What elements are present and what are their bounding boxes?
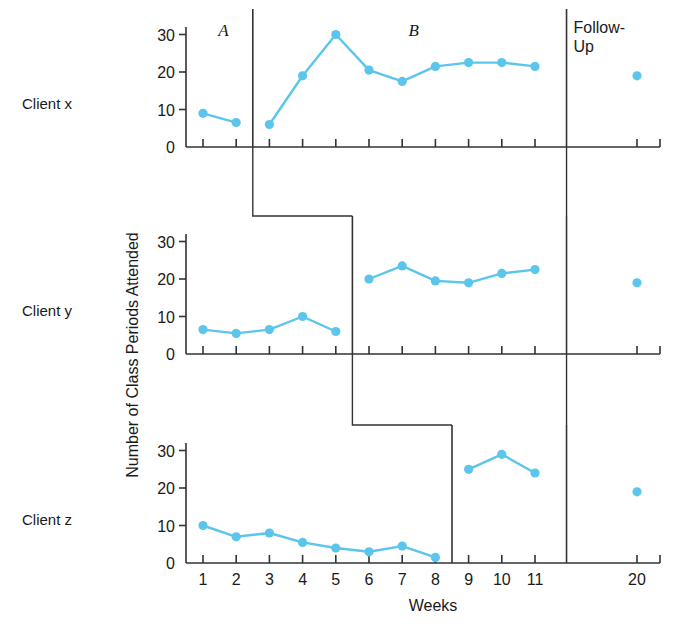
y-tick-label-panel-1-1: 10 <box>157 309 175 326</box>
phase-label-followup-line1: Follow- <box>574 19 626 36</box>
data-point-panel-1-1-0[interactable] <box>364 274 373 283</box>
y-tick-label-panel-1-2: 20 <box>157 271 175 288</box>
y-tick-label-panel-0-0: 0 <box>166 139 175 156</box>
data-point-panel-1-1-4[interactable] <box>497 269 506 278</box>
x-tick-label-3: 4 <box>298 571 307 588</box>
panel-label-1: Client y <box>22 302 73 319</box>
data-point-panel-1-1-3[interactable] <box>464 278 473 287</box>
figure-canvas: 010203001020300102030123456789101120Week… <box>0 0 679 633</box>
data-point-panel-2-0-6[interactable] <box>398 542 407 551</box>
x-tick-label-1: 2 <box>232 571 241 588</box>
data-point-panel-1-1-1[interactable] <box>398 261 407 270</box>
series-line-panel-0-0 <box>203 113 236 122</box>
data-point-panel-2-0-0[interactable] <box>198 521 207 530</box>
y-tick-label-panel-0-1: 10 <box>157 102 175 119</box>
panel-label-0: Client x <box>22 95 73 112</box>
data-point-panel-1-2-0[interactable] <box>632 278 641 287</box>
x-tick-label-2: 3 <box>265 571 274 588</box>
data-point-panel-1-0-0[interactable] <box>198 325 207 334</box>
series-line-panel-2-0 <box>203 526 435 558</box>
y-tick-label-panel-2-1: 10 <box>157 518 175 535</box>
data-point-panel-2-0-2[interactable] <box>265 528 274 537</box>
x-axis-title: Weeks <box>409 597 458 614</box>
y-tick-label-panel-0-3: 30 <box>157 27 175 44</box>
y-tick-label-panel-1-0: 0 <box>166 346 175 363</box>
baseline-step-connector-0 <box>253 147 353 216</box>
x-tick-label-7: 8 <box>431 571 440 588</box>
x-tick-label-9: 10 <box>493 571 511 588</box>
phase-label-b: B <box>408 21 419 40</box>
x-tick-label-6: 7 <box>398 571 407 588</box>
y-tick-label-panel-2-0: 0 <box>166 555 175 572</box>
data-point-panel-1-0-4[interactable] <box>331 327 340 336</box>
x-tick-label-8: 9 <box>464 571 473 588</box>
data-point-panel-0-1-6[interactable] <box>464 58 473 67</box>
data-point-panel-2-1-0[interactable] <box>464 465 473 474</box>
data-point-panel-2-0-7[interactable] <box>431 553 440 562</box>
data-point-panel-2-2-0[interactable] <box>632 487 641 496</box>
y-axis-title: Number of Class Periods Attended <box>124 232 141 477</box>
data-point-panel-0-1-4[interactable] <box>398 77 407 86</box>
y-tick-label-panel-2-3: 30 <box>157 443 175 460</box>
data-point-panel-0-1-7[interactable] <box>497 58 506 67</box>
data-point-panel-0-0-0[interactable] <box>198 109 207 118</box>
y-tick-label-panel-1-3: 30 <box>157 234 175 251</box>
data-point-panel-0-1-2[interactable] <box>331 30 340 39</box>
phase-label-a: A <box>217 21 229 40</box>
data-point-panel-2-0-1[interactable] <box>232 532 241 541</box>
y-tick-label-panel-0-2: 20 <box>157 64 175 81</box>
x-tick-label-11: 20 <box>628 571 646 588</box>
x-tick-label-5: 6 <box>365 571 374 588</box>
data-point-panel-0-1-3[interactable] <box>364 66 373 75</box>
multiple-baseline-chart: 010203001020300102030123456789101120Week… <box>0 0 679 633</box>
data-point-panel-2-1-1[interactable] <box>497 450 506 459</box>
series-line-panel-1-1 <box>369 266 535 283</box>
data-point-panel-2-0-5[interactable] <box>364 547 373 556</box>
data-point-panel-2-0-3[interactable] <box>298 538 307 547</box>
data-point-panel-0-1-1[interactable] <box>298 71 307 80</box>
x-tick-label-10: 11 <box>527 571 544 588</box>
panel-label-2: Client z <box>22 511 72 528</box>
data-point-panel-1-1-5[interactable] <box>530 265 539 274</box>
data-point-panel-1-0-3[interactable] <box>298 312 307 321</box>
x-tick-label-4: 5 <box>331 571 340 588</box>
data-point-panel-2-0-4[interactable] <box>331 543 340 552</box>
data-point-panel-0-1-8[interactable] <box>530 62 539 71</box>
x-tick-label-0: 1 <box>199 571 208 588</box>
data-point-panel-1-1-2[interactable] <box>431 276 440 285</box>
data-point-panel-0-2-0[interactable] <box>632 71 641 80</box>
data-point-panel-1-0-2[interactable] <box>265 325 274 334</box>
data-point-panel-0-1-0[interactable] <box>265 120 274 129</box>
data-point-panel-0-0-1[interactable] <box>232 118 241 127</box>
phase-label-followup-line2: Up <box>574 38 595 55</box>
data-point-panel-0-1-5[interactable] <box>431 62 440 71</box>
data-point-panel-2-1-2[interactable] <box>530 468 539 477</box>
baseline-step-connector-1 <box>352 354 452 425</box>
data-point-panel-1-0-1[interactable] <box>232 329 241 338</box>
y-tick-label-panel-2-2: 20 <box>157 480 175 497</box>
